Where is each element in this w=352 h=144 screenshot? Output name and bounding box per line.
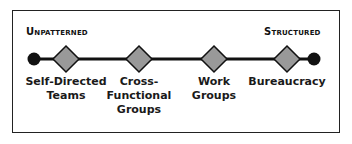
left-endpoint-icon (28, 53, 41, 66)
diamond-icon-bureaucracy (274, 46, 300, 72)
label-line: Bureaucracy (242, 75, 332, 89)
node-label-bureaucracy: Bureaucracy (242, 75, 332, 89)
diamond-icon-work-groups (201, 46, 227, 72)
label-line: Groups (169, 89, 259, 103)
diamond-icon-self-directed-teams (53, 46, 79, 72)
label-line: Groups (94, 103, 184, 117)
right-endpoint-icon (308, 53, 321, 66)
diamond-icon-cross-functional-groups (126, 46, 152, 72)
continuum-track (0, 0, 352, 144)
